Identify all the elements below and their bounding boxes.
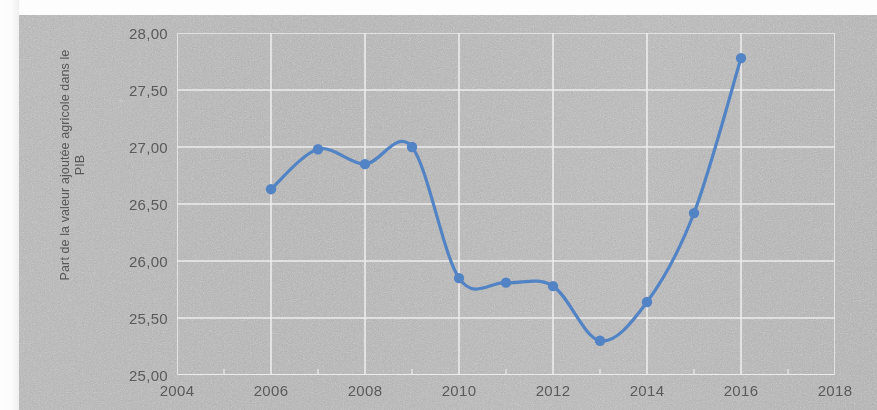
x-tick-label: 2010	[442, 382, 477, 399]
data-point-marker	[548, 281, 558, 291]
data-line-series-1	[271, 58, 741, 341]
data-point-marker	[313, 144, 323, 154]
y-axis-title: Part de la valeur ajoutée agricole dans …	[58, 0, 88, 330]
data-point-marker	[454, 273, 464, 283]
x-tick-label: 2004	[160, 382, 195, 399]
plot-area	[177, 33, 835, 375]
data-point-marker	[736, 53, 746, 63]
grid-lines	[177, 33, 835, 375]
x-tick-label: 2016	[724, 382, 759, 399]
data-point-marker	[642, 297, 652, 307]
x-tick-label: 2014	[630, 382, 665, 399]
page-top-margin	[0, 0, 877, 15]
data-point-marker	[266, 184, 276, 194]
y-tick-label: 25,00	[98, 367, 168, 384]
y-tick-label: 27,00	[98, 139, 168, 156]
x-tick-label: 2018	[818, 382, 853, 399]
data-point-marker	[595, 336, 605, 346]
data-point-marker	[407, 142, 417, 152]
y-axis-title-line-1: Part de la valeur ajoutée agricole dans …	[58, 50, 72, 281]
y-tick-label: 25,50	[98, 310, 168, 327]
x-tick-label: 2006	[254, 382, 289, 399]
x-tick-label: 2008	[348, 382, 383, 399]
page-left-margin	[0, 0, 19, 410]
data-point-marker	[360, 159, 370, 169]
chart-screenshot: Part de la valeur ajoutée agricole dans …	[0, 0, 877, 410]
y-tick-label: 27,50	[98, 82, 168, 99]
chart-canvas	[177, 33, 835, 375]
y-tick-label: 28,00	[98, 25, 168, 42]
y-axis-title-line-2: PIB	[73, 155, 87, 175]
y-tick-label: 26,50	[98, 196, 168, 213]
y-tick-label: 26,00	[98, 253, 168, 270]
data-point-marker	[689, 208, 699, 218]
x-tick-label: 2012	[536, 382, 571, 399]
data-point-markers	[266, 53, 746, 346]
y-axis-tick-labels: 28,00 27,50 27,00 26,50 26,00 25,50 25,0…	[96, 0, 168, 410]
data-point-marker	[501, 277, 511, 287]
